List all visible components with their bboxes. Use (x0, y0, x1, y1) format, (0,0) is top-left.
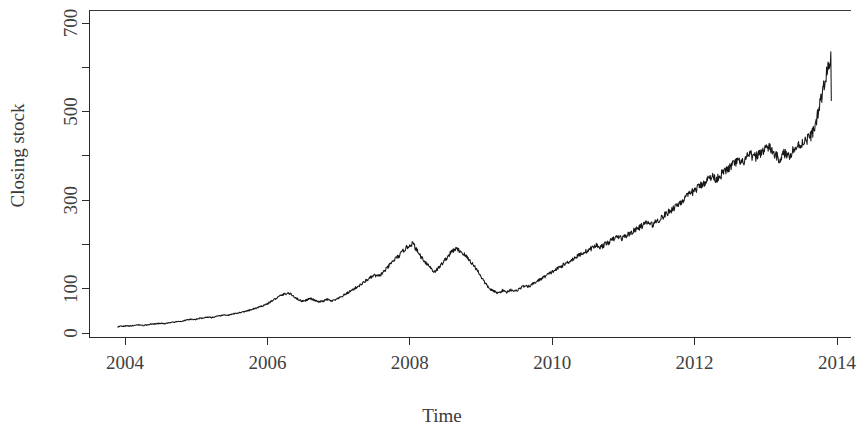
axis-lines (89, 10, 851, 337)
y-tick-label: 0 (60, 328, 81, 338)
closing-stock-line (118, 52, 831, 328)
data-series-group (118, 52, 831, 328)
y-axis-tick-labels: 0100300500700 (60, 9, 81, 338)
x-axis-title: Time (422, 405, 461, 426)
x-tick-label: 2014 (818, 352, 856, 373)
time-series-plot: 0100300500700 200420062008201020122014 C… (0, 0, 856, 429)
y-axis-ticks (82, 23, 89, 333)
y-tick-label: 300 (60, 186, 81, 215)
x-tick-label: 2006 (248, 352, 286, 373)
x-tick-label: 2010 (533, 352, 571, 373)
y-tick-label: 500 (60, 97, 81, 126)
chart-figure: 0100300500700 200420062008201020122014 C… (0, 0, 856, 429)
y-axis-title: Closing stock (7, 103, 28, 207)
y-tick-label: 100 (60, 274, 81, 303)
x-axis-tick-labels: 200420062008201020122014 (106, 352, 856, 373)
x-axis-ticks (125, 337, 837, 345)
x-tick-label: 2012 (676, 352, 714, 373)
y-tick-label: 700 (60, 9, 81, 38)
x-tick-label: 2008 (391, 352, 429, 373)
plot-frame (89, 10, 851, 337)
x-tick-label: 2004 (106, 352, 145, 373)
